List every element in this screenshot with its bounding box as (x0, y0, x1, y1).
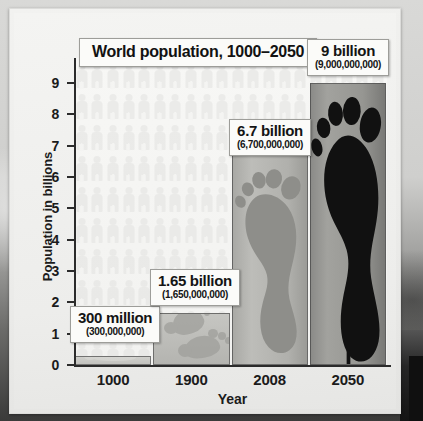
person-pictogram-icon (386, 310, 387, 337)
person-pictogram-icon (90, 93, 106, 120)
person-pictogram-icon (74, 155, 90, 182)
person-pictogram-icon (121, 124, 137, 151)
person-pictogram-icon (152, 186, 168, 213)
person-pictogram-icon (136, 217, 152, 244)
x-axis-tick-label-1000: 1000 (74, 371, 152, 388)
person-pictogram-icon (105, 93, 121, 120)
person-pictogram-icon (199, 124, 215, 151)
y-axis-tick (67, 301, 75, 303)
person-pictogram-icon (74, 124, 90, 151)
person-pictogram-icon (105, 186, 121, 213)
person-pictogram-icon (386, 186, 387, 213)
footprint-icon-1900-b (178, 328, 229, 362)
footprint-icon-2050 (311, 84, 385, 364)
person-pictogram-icon (136, 124, 152, 151)
person-pictogram-icon (136, 186, 152, 213)
person-pictogram-icon (199, 93, 215, 120)
person-pictogram-icon (214, 93, 230, 120)
x-axis-tick-label-2050: 2050 (309, 371, 387, 388)
x-axis-tick-label-1900: 1900 (152, 371, 230, 388)
backdrop-dark-strip-inner (409, 356, 423, 421)
person-pictogram-icon (386, 279, 387, 306)
y-axis-tick (67, 239, 75, 241)
person-pictogram-icon (136, 93, 152, 120)
person-pictogram-icon (152, 155, 168, 182)
person-pictogram-icon (183, 155, 199, 182)
callout-2008-value: 6.7 billion (237, 123, 303, 139)
person-pictogram-icon (168, 155, 184, 182)
person-pictogram-icon (105, 124, 121, 151)
page-inner-surface: 0123456789 Population in billions 100019… (14, 13, 396, 409)
y-axis-tick-label: 9 (39, 75, 59, 91)
person-pictogram-icon (152, 124, 168, 151)
chart-title: World population, 1000–2050 (92, 43, 304, 61)
person-pictogram-icon (199, 217, 215, 244)
person-pictogram-icon (183, 217, 199, 244)
person-pictogram-icon (90, 248, 106, 275)
callout-1000: 300 million (300,000,000) (70, 306, 160, 343)
person-pictogram-icon (121, 217, 137, 244)
callout-1900: 1.65 billion (1,650,000,000) (150, 269, 240, 306)
callout-1900-number: (1,650,000,000) (158, 290, 232, 301)
x-axis-tick-label-2008: 2008 (231, 371, 309, 388)
person-pictogram-icon (386, 341, 387, 365)
chart-title-box: World population, 1000–2050 (79, 38, 317, 67)
bar-1900[interactable] (153, 313, 229, 365)
bar-1000[interactable] (75, 356, 151, 365)
callout-2008-number: (6,700,000,000) (237, 140, 303, 151)
person-pictogram-icon (183, 186, 199, 213)
bar-2050[interactable] (310, 83, 386, 365)
person-pictogram-icon (183, 93, 199, 120)
person-pictogram-icon (74, 248, 90, 275)
footprint-icon-2008 (233, 156, 307, 364)
person-pictogram-icon (121, 155, 137, 182)
person-pictogram-icon (230, 93, 246, 120)
person-pictogram-icon (168, 186, 184, 213)
callout-1900-value: 1.65 billion (158, 273, 232, 289)
x-axis-line (74, 365, 391, 367)
y-axis-tick (67, 364, 75, 366)
person-pictogram-icon (277, 93, 293, 120)
callout-2050-value: 9 billion (315, 43, 381, 59)
person-pictogram-icon (74, 186, 90, 213)
callout-1000-value: 300 million (78, 310, 152, 326)
y-axis-tick (67, 113, 75, 115)
y-axis-tick (67, 270, 75, 272)
person-pictogram-icon (105, 155, 121, 182)
person-pictogram-icon (292, 93, 308, 120)
y-axis-tick (67, 82, 75, 84)
callout-2050: 9 billion (9,000,000,000) (307, 39, 389, 76)
person-pictogram-icon (183, 124, 199, 151)
callout-2008: 6.7 billion (6,700,000,000) (229, 119, 311, 156)
person-pictogram-icon (90, 155, 106, 182)
y-axis-tick-label: 8 (39, 106, 59, 122)
person-pictogram-icon (121, 248, 137, 275)
scanned-page: 0123456789 Population in billions 100019… (9, 8, 401, 414)
person-pictogram-icon (214, 124, 230, 151)
person-pictogram-icon (152, 93, 168, 120)
person-pictogram-icon (74, 93, 90, 120)
person-pictogram-icon (246, 93, 262, 120)
person-pictogram-icon (105, 217, 121, 244)
person-pictogram-icon (386, 248, 387, 275)
person-pictogram-icon (152, 217, 168, 244)
person-pictogram-icon (136, 155, 152, 182)
person-pictogram-icon (74, 279, 90, 306)
person-pictogram-icon (214, 155, 230, 182)
y-axis-tick (67, 207, 75, 209)
person-pictogram-icon (386, 217, 387, 244)
person-pictogram-icon (121, 279, 137, 306)
y-axis-tick (67, 145, 75, 147)
footprint-icon-1000 (82, 356, 151, 363)
person-pictogram-icon (105, 279, 121, 306)
bar-2008[interactable] (232, 155, 308, 365)
person-pictogram-icon (386, 93, 387, 120)
y-axis-title: Population in billions (40, 127, 55, 307)
person-pictogram-icon (199, 186, 215, 213)
person-pictogram-icon (168, 93, 184, 120)
person-pictogram-icon (90, 279, 106, 306)
population-bar-chart: 0123456789 Population in billions 100019… (14, 13, 404, 417)
person-pictogram-icon (168, 124, 184, 151)
x-axis-title: Year (74, 391, 391, 407)
person-pictogram-icon (105, 248, 121, 275)
